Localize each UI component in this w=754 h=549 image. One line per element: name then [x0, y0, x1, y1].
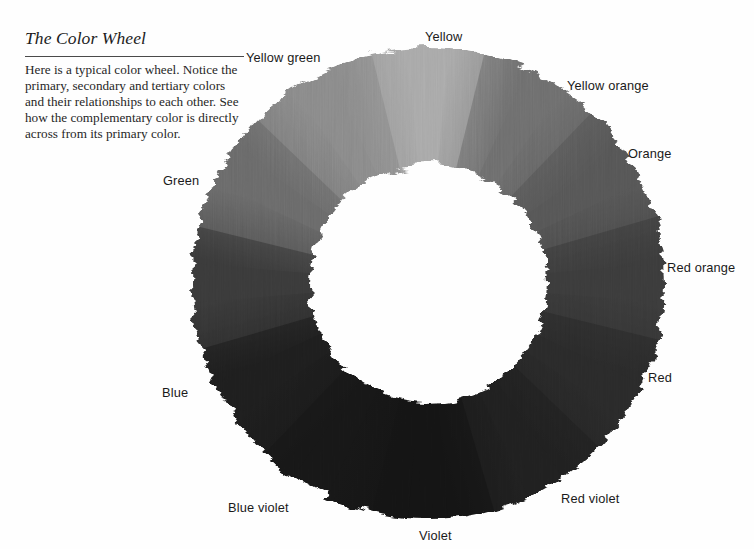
wheel-label-yellow-orange: Yellow orange: [567, 78, 649, 93]
wheel-label-green: Green: [163, 173, 199, 188]
wheel-label-red-orange: Red orange: [667, 260, 735, 275]
wheel-label-yellow: Yellow: [425, 29, 462, 44]
wheel-label-orange: Orange: [628, 146, 672, 161]
color-wheel-page: The Color Wheel Here is a typical color …: [0, 0, 754, 549]
wheel-label-blue: Blue: [162, 385, 188, 400]
color-wheel-graphic: [188, 33, 670, 538]
wheel-label-yellow-green: Yellow green: [246, 50, 321, 65]
wheel-label-red-violet: Red violet: [561, 491, 619, 506]
brush-texture-overlay: [188, 33, 670, 538]
wheel-label-blue-violet: Blue violet: [228, 500, 289, 515]
color-wheel-figure: [188, 33, 670, 538]
wheel-label-red: Red: [648, 370, 672, 385]
wheel-label-violet: Violet: [419, 528, 452, 543]
